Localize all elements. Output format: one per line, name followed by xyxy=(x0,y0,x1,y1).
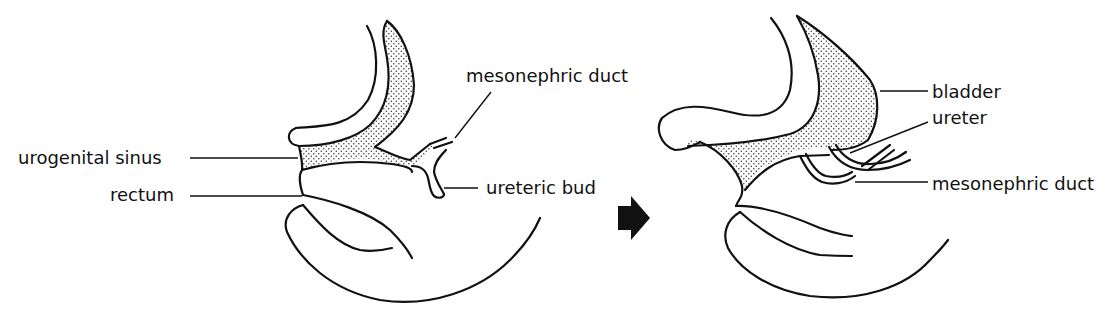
bladder-inner-wall xyxy=(659,18,792,150)
label-ureter: ureter xyxy=(932,107,988,128)
bladder-fill xyxy=(687,16,877,190)
bladder-floor xyxy=(688,16,819,146)
label-mesonephric-duct-later: mesonephric duct xyxy=(932,173,1094,194)
label-urogenital-sinus: urogenital sinus xyxy=(18,147,162,168)
panel-early xyxy=(286,21,540,302)
allantois-inner-wall xyxy=(296,26,376,128)
diagram-canvas: urogenital sinus rectum mesonephric duct… xyxy=(0,0,1119,316)
leader-mesonephric-duct xyxy=(455,92,491,138)
mesonephric-duct-outline xyxy=(430,138,452,148)
right-arrow-icon xyxy=(618,196,650,240)
label-mesonephric-duct-early: mesonephric duct xyxy=(466,65,628,86)
rectum-inner-line xyxy=(303,205,392,251)
diagram-urogenital-development: urogenital sinus rectum mesonephric duct… xyxy=(0,0,1119,316)
label-ureteric-bud: ureteric bud xyxy=(486,177,596,198)
panel-later xyxy=(659,16,948,297)
rectum-later-upper-line xyxy=(736,206,852,236)
label-bladder: bladder xyxy=(932,81,1001,102)
rectum-lower-loop xyxy=(286,205,540,302)
label-rectum: rectum xyxy=(110,184,174,205)
duct-segment xyxy=(862,145,894,170)
